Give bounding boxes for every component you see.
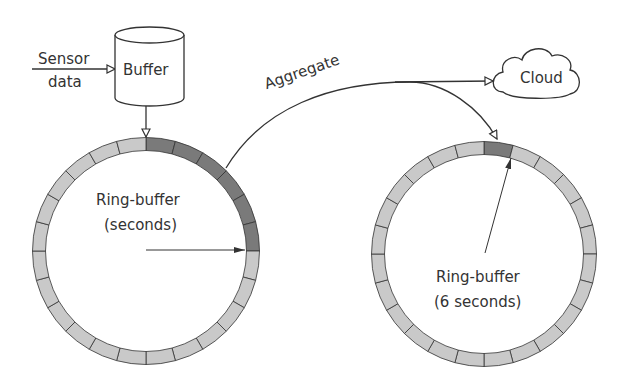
ring-segment: [428, 145, 458, 167]
ring-segment: [33, 222, 49, 251]
ring-segment: [455, 350, 484, 366]
ring-right-label-line1: Ring-buffer: [436, 268, 520, 286]
ring-segment: [375, 280, 397, 310]
ring-segment: [146, 138, 175, 154]
ring-right-pointer-arrow: [485, 158, 511, 253]
ring-segment: [510, 340, 540, 362]
ring-segment: [570, 198, 592, 228]
ring-segment: [484, 350, 513, 366]
ring-segment: [484, 142, 513, 158]
ring-segment: [146, 348, 175, 364]
ring-segment: [580, 254, 596, 283]
ring-segment: [455, 142, 484, 158]
cloud-label: Cloud: [520, 69, 563, 87]
ring-segment: [372, 225, 388, 254]
buffer-label: Buffer: [123, 61, 169, 79]
sensor-data-label-line1: Sensor: [38, 50, 89, 68]
sensor-data-label-line2: data: [48, 73, 82, 91]
cloud-arrow: [395, 81, 493, 82]
ring-segment: [36, 277, 59, 308]
ring-segment: [117, 138, 146, 154]
ring-left-label-line2: (seconds): [104, 216, 177, 234]
ring-segment: [243, 222, 259, 251]
ring-right-label-line2: (6 seconds): [434, 293, 521, 311]
ring-segment: [372, 254, 388, 283]
ring-segment: [172, 338, 203, 361]
ring-buffer-seconds: [33, 138, 260, 365]
ring-segment: [117, 348, 146, 364]
ring-segment: [89, 141, 120, 164]
ring-segment: [243, 251, 259, 280]
ring-left-label-line1: Ring-buffer: [96, 191, 180, 209]
ring-segment: [580, 225, 596, 254]
ring-segment: [33, 251, 49, 280]
ring-segment: [233, 194, 256, 225]
ring-buffer-6-seconds: [372, 142, 597, 367]
